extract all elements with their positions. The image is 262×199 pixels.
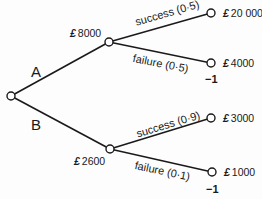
branch-b-edge [11, 96, 110, 149]
chance-a-value: £8000 [70, 28, 101, 39]
branch-a-edge [11, 42, 109, 96]
outcome-node-b-success [207, 114, 215, 122]
outcome-b-success-value: £3000 [223, 113, 254, 124]
branch-label-b: B [31, 117, 41, 132]
outcome-a-failure-value: £4000 [223, 58, 254, 69]
currency-symbol: £ [70, 27, 76, 39]
outcome-a-failure-note: −1 [205, 74, 218, 85]
chance-node-b [106, 145, 114, 153]
outcome-node-a-failure [207, 59, 215, 67]
chance-node-a [105, 38, 113, 46]
outcome-a-success-value: £20 000 [223, 8, 262, 19]
tree-edges [0, 0, 262, 199]
decision-tree-diagram: A B £8000 £2600 success (0·5) failure (0… [0, 0, 262, 199]
chance-b-value: £2600 [74, 156, 105, 167]
outcome-b-failure-value: £1000 [224, 167, 255, 178]
outcome-node-b-failure [208, 168, 216, 176]
outcome-b-failure-note: −1 [206, 184, 219, 195]
branch-label-a: A [31, 64, 41, 79]
decision-node [7, 92, 15, 100]
currency-symbol: £ [74, 155, 80, 167]
outcome-node-a-success [207, 9, 215, 17]
